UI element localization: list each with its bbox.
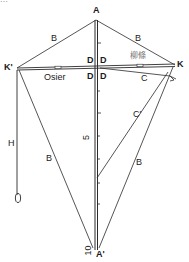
label-b-bottom-left: B bbox=[46, 154, 52, 163]
label-h: H bbox=[8, 139, 15, 148]
c-prime-line bbox=[97, 72, 168, 178]
label-k: K bbox=[177, 60, 184, 69]
label-osier: Osier bbox=[44, 73, 66, 82]
crossbar bbox=[17, 64, 175, 70]
spine-ticks bbox=[98, 43, 102, 204]
hanging-line-h bbox=[15, 70, 20, 203]
bridle-lines bbox=[17, 20, 175, 248]
cropped-top-text: … bbox=[0, 0, 8, 4]
label-b-bottom-right: B bbox=[136, 158, 142, 167]
label-d-upper-left: D bbox=[87, 56, 94, 65]
label-c-prime: C' bbox=[133, 110, 141, 119]
label-d-lower-right: D bbox=[100, 72, 107, 81]
label-c: C bbox=[141, 74, 148, 83]
label-a: A bbox=[93, 6, 100, 15]
label-b-top-left: B bbox=[51, 34, 57, 43]
label-d-upper-right: D bbox=[100, 56, 107, 65]
kite-diagram bbox=[0, 0, 189, 262]
label-d-lower-left: D bbox=[87, 72, 94, 81]
label-scale-10: 10 bbox=[84, 245, 93, 255]
spine bbox=[95, 20, 98, 250]
label-k-prime: K' bbox=[4, 63, 13, 72]
label-willow-cjk: 柳條 bbox=[130, 52, 146, 60]
label-b-top-right: B bbox=[135, 34, 141, 43]
label-a-prime: A' bbox=[96, 250, 105, 259]
label-scale-5: 5 bbox=[82, 135, 91, 140]
